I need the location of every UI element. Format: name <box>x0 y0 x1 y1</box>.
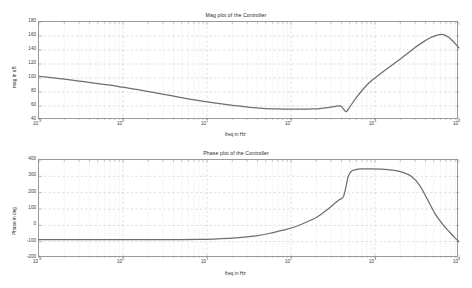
y-tick-label: 100 <box>12 205 36 210</box>
x-tick-label: 101 <box>201 259 208 264</box>
x-tick-label: 102 <box>285 121 292 126</box>
phase-tick-marks <box>39 160 459 258</box>
bode-figure: Mag plot of the Controller mag in dB fre… <box>0 0 472 288</box>
magnitude-plot-area <box>38 21 458 119</box>
y-tick-label: 60 <box>12 102 36 107</box>
phase-x-axis-label: freq in Hz <box>225 271 246 276</box>
y-tick-label: 100 <box>12 74 36 79</box>
y-tick-label: 400 <box>12 156 36 161</box>
phase-plot-title: Phase plot of the Controller <box>0 150 472 156</box>
x-tick-label: 103 <box>369 121 376 126</box>
magnitude-major-gridlines <box>39 22 459 120</box>
magnitude-plot-svg <box>39 22 459 120</box>
phase-major-gridlines <box>39 160 459 258</box>
magnitude-plot-title: Mag plot of the Controller <box>0 12 472 18</box>
magnitude-panel: Mag plot of the Controller mag in dB fre… <box>0 0 472 145</box>
x-tick-label: 103 <box>369 259 376 264</box>
x-tick-label: 100 <box>117 121 124 126</box>
magnitude-x-axis-label: freq in Hz <box>225 132 246 137</box>
phase-plot-svg <box>39 160 459 258</box>
phase-panel: Phase plot of the Controller Phase in de… <box>0 145 472 288</box>
y-tick-label: -100 <box>12 238 36 243</box>
y-tick-label: 180 <box>12 18 36 23</box>
y-tick-label: 200 <box>12 189 36 194</box>
phase-response-curve <box>39 169 459 242</box>
y-tick-label: 140 <box>12 46 36 51</box>
x-tick-label: 10-1 <box>33 121 41 126</box>
y-tick-label: 160 <box>12 32 36 37</box>
x-tick-label: 104 <box>453 259 460 264</box>
magnitude-tick-marks <box>39 22 459 120</box>
y-tick-label: 0 <box>12 221 36 226</box>
x-tick-label: 104 <box>453 121 460 126</box>
phase-plot-area <box>38 159 458 257</box>
x-tick-label: 10-1 <box>33 259 41 264</box>
magnitude-response-curve <box>39 34 459 111</box>
x-tick-label: 100 <box>117 259 124 264</box>
x-tick-label: 102 <box>285 259 292 264</box>
y-tick-label: 300 <box>12 172 36 177</box>
x-tick-label: 101 <box>201 121 208 126</box>
y-tick-label: 80 <box>12 88 36 93</box>
y-tick-label: 120 <box>12 60 36 65</box>
